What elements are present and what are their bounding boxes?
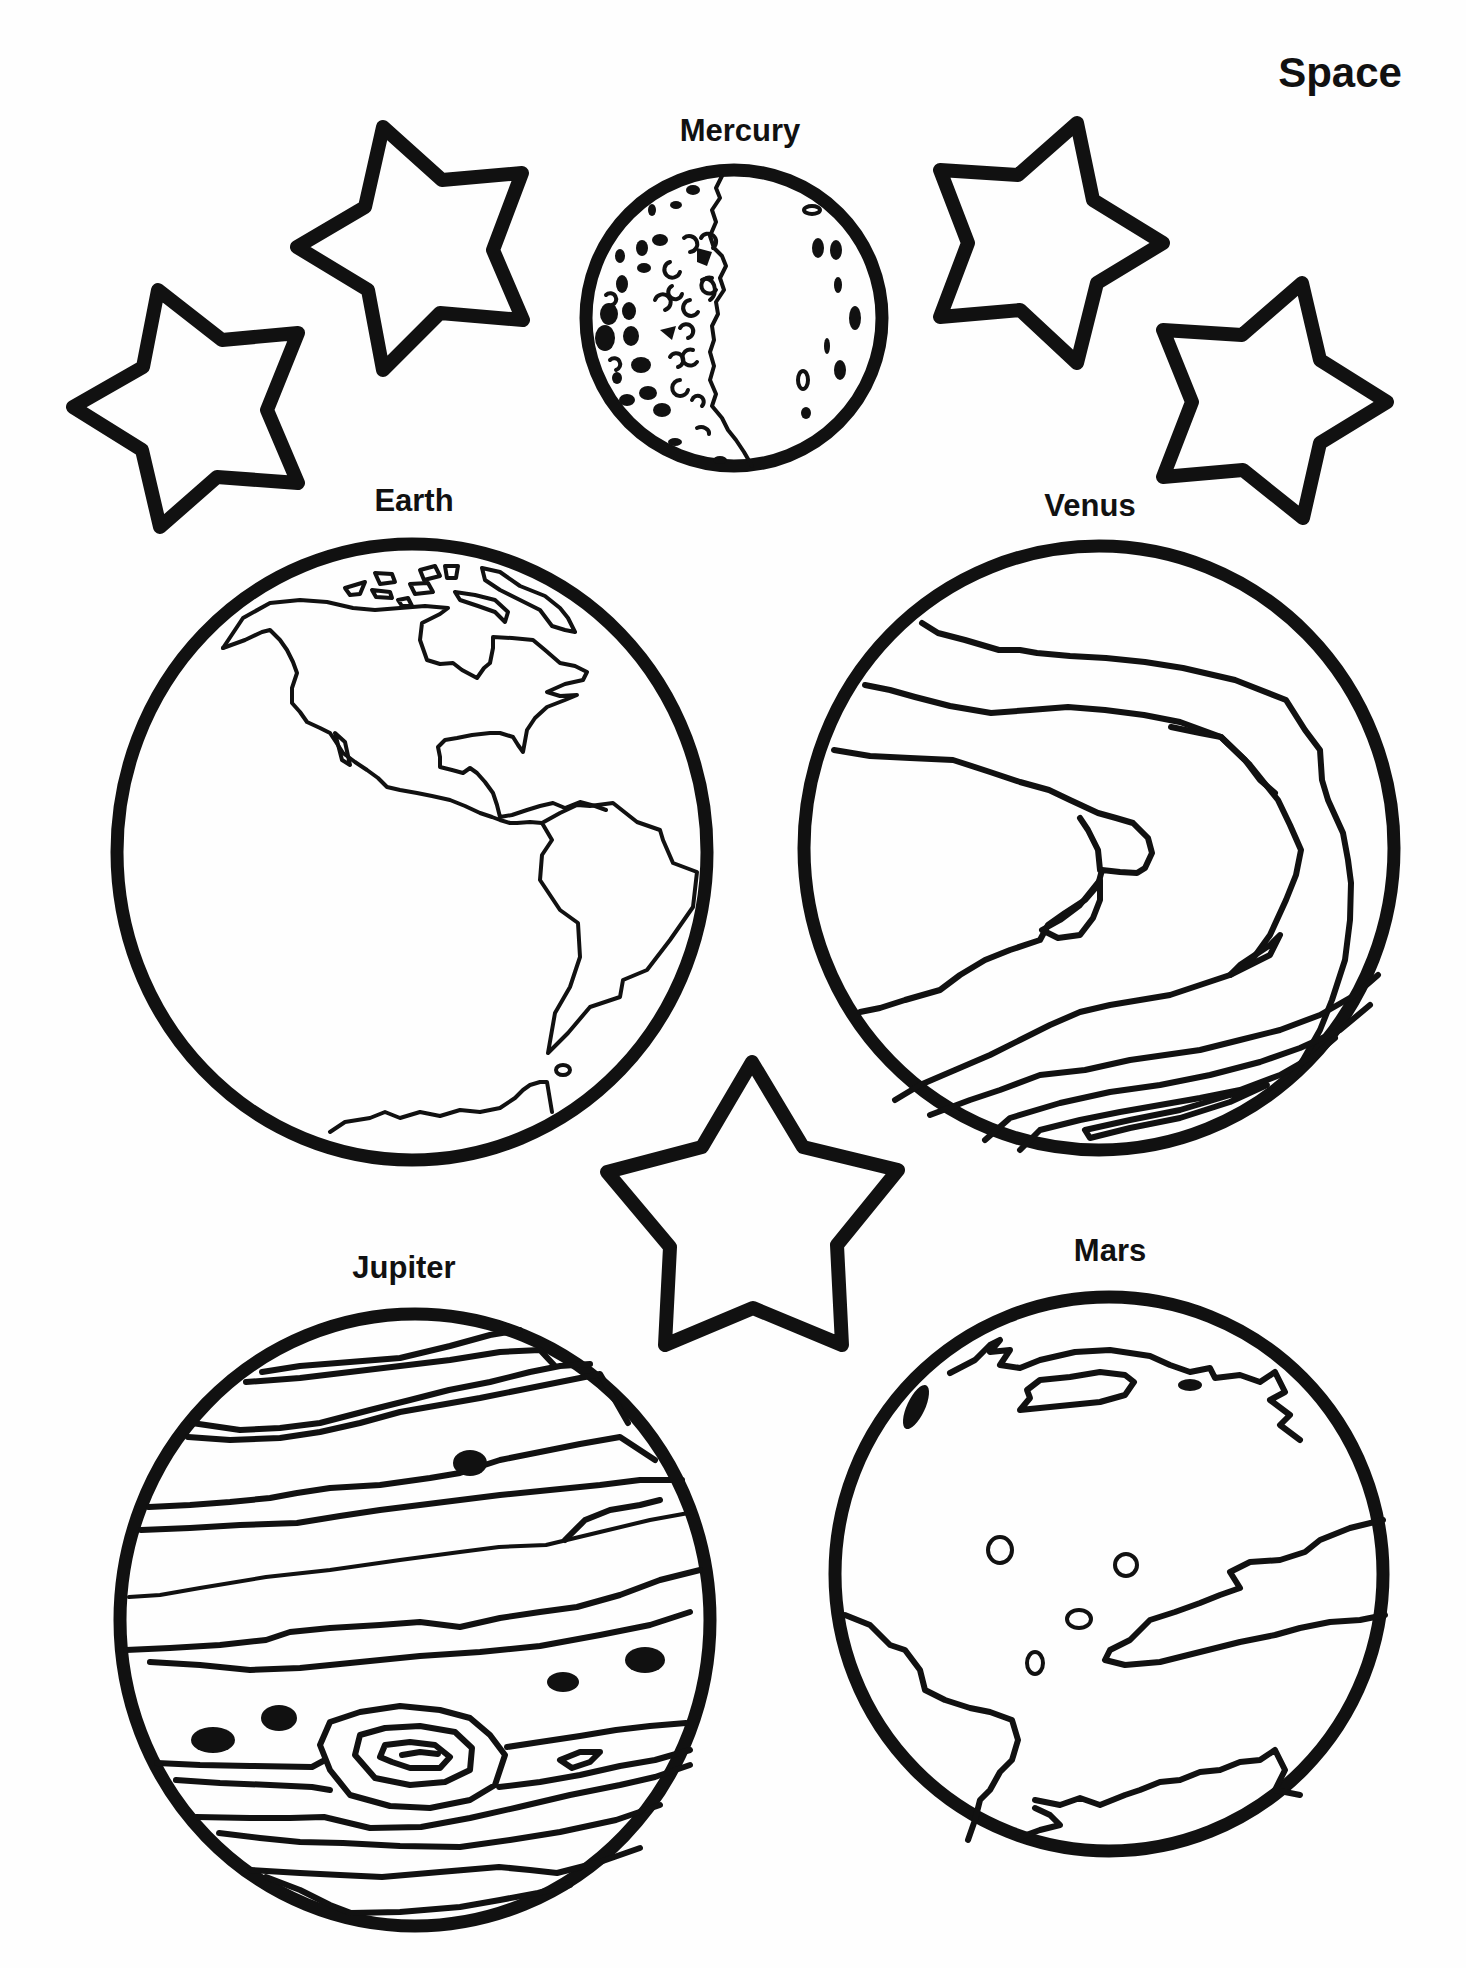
venus-planet	[804, 546, 1394, 1150]
planet-label-earth: Earth	[374, 485, 453, 516]
mercury-planet	[586, 170, 882, 466]
star-icon	[73, 290, 298, 527]
planet-label-jupiter: Jupiter	[352, 1252, 455, 1283]
artwork	[0, 0, 1466, 1968]
earth-planet	[117, 544, 707, 1160]
coloring-page: Space Mercury Earth Venus Jupiter Mars	[0, 0, 1466, 1968]
star-icon	[940, 123, 1163, 363]
planet-label-mars: Mars	[1074, 1235, 1146, 1266]
star-icon	[297, 127, 523, 370]
planet-label-mercury: Mercury	[680, 115, 801, 146]
page-title: Space	[1278, 52, 1402, 94]
mars-planet	[835, 1297, 1385, 1851]
star-icon	[607, 1062, 898, 1345]
jupiter-planet	[120, 1314, 710, 1926]
star-icon	[1163, 283, 1387, 518]
planet-label-venus: Venus	[1044, 490, 1135, 521]
great-red-spot-swirl	[320, 1706, 505, 1808]
